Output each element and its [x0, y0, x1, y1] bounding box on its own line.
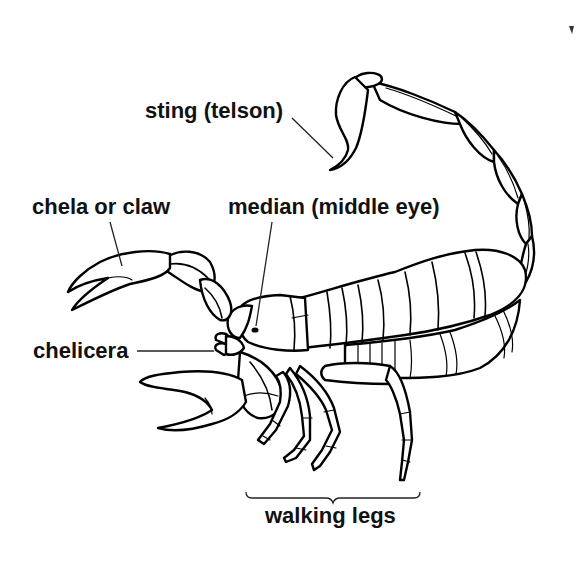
sting-leader-line [292, 118, 333, 158]
upper-pedipalp [68, 251, 231, 320]
lower-pedipalp [140, 352, 282, 430]
label-sting: sting (telson) [145, 100, 283, 122]
walking-legs-bracket [246, 492, 420, 503]
label-median-eye: median (middle eye) [228, 196, 440, 218]
abdomen [300, 250, 526, 378]
scorpion-illustration [0, 0, 579, 570]
label-walking-legs: walking legs [265, 505, 396, 527]
scorpion-diagram: sting (telson) chela or claw median (mid… [0, 0, 579, 570]
label-chelicera: chelicera [33, 340, 128, 362]
median-eye-dot [252, 327, 259, 332]
telson [330, 77, 368, 170]
tail [353, 72, 534, 282]
walking-legs [258, 363, 412, 480]
label-chela: chela or claw [32, 196, 170, 218]
edge-artifact [569, 26, 574, 34]
